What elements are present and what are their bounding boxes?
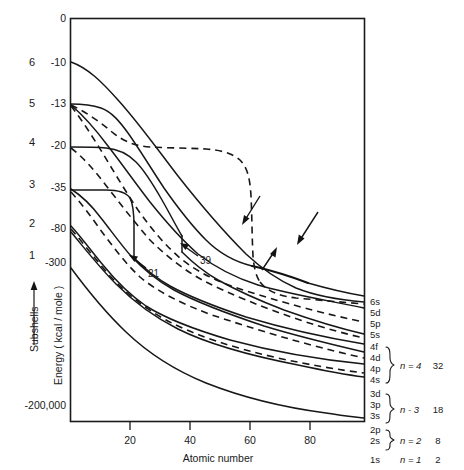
n-value-label-1: n = 1	[400, 454, 421, 465]
subshell-label-1s: 1s	[370, 454, 380, 465]
brace-n4	[386, 347, 394, 383]
shell-number-5: 5	[29, 97, 35, 109]
y-tick-label-minus300: -300	[45, 256, 66, 268]
capacity-label-3: 18	[433, 404, 444, 415]
shell-number-4: 4	[29, 136, 35, 148]
y-tick-label-minus10: -10	[51, 56, 66, 68]
x-axis-title: Atomic number	[183, 452, 254, 464]
subshell-label-3s: 3s	[370, 410, 380, 421]
x-tick-label-80: 80	[304, 434, 316, 446]
subshell-label-5p: 5p	[370, 318, 381, 329]
curve-3p	[71, 192, 364, 358]
curve-2s	[71, 232, 364, 377]
curve-5p	[71, 105, 260, 282]
shell-number-1: 1	[29, 249, 35, 261]
y-axis-title: Energy ( kcal / mole )	[52, 286, 64, 385]
subshell-label-4p: 4p	[370, 363, 381, 374]
capacity-label-2: 8	[435, 435, 440, 446]
annotation-arrow-21	[129, 255, 146, 268]
x-tick-label-20: 20	[124, 434, 136, 446]
subshell-label-2s: 2s	[370, 435, 380, 446]
subshell-label-4f: 4f	[370, 341, 378, 352]
annotation-arrow-5d-bold	[297, 212, 318, 245]
x-tick-label-60: 60	[244, 434, 256, 446]
n-value-label-3: n - 3	[400, 404, 420, 415]
annotation-label-39: 39	[200, 255, 212, 266]
x-tick-label-40: 40	[184, 434, 196, 446]
subshell-label-3d: 3d	[370, 388, 381, 399]
shell-number-6: 6	[29, 56, 35, 68]
curve-5s	[71, 105, 364, 308]
subshell-label-4d: 4d	[370, 352, 381, 363]
subshell-label-4s: 4s	[370, 374, 380, 385]
subshell-label-5s: 5s	[370, 329, 380, 340]
y-tick-label-minus200000: -200,000	[25, 399, 67, 411]
curve-1s	[71, 268, 364, 418]
capacity-label-4: 32	[433, 360, 444, 371]
y-tick-label-minus13: -13	[51, 97, 66, 109]
curve-4f	[71, 106, 364, 322]
y-tick-label-minus20: -20	[51, 139, 66, 151]
y-axis-secondary-title: Subshells	[28, 306, 40, 352]
annotation-label-21: 21	[148, 268, 160, 279]
orbital-energy-figure: 20 40 60 80 Atomic number 0 -10 -13 -20 …	[0, 0, 464, 470]
curve-3d-pre	[71, 189, 131, 256]
subshell-label-2p: 2p	[370, 424, 381, 435]
brace-n2	[386, 430, 394, 450]
annotation-arrow-4f-crossing	[262, 247, 277, 270]
curve-5d-left	[71, 104, 252, 266]
x-axis-ticks	[130, 422, 310, 431]
subshell-label-6s: 6s	[370, 296, 380, 307]
capacity-label-1: 2	[435, 454, 440, 465]
n-value-label-4: n = 4	[400, 360, 421, 371]
y-tick-label-0: 0	[60, 12, 66, 24]
y-tick-label-minus80: -80	[51, 222, 66, 234]
curve-6s	[71, 62, 364, 302]
subshell-label-5d: 5d	[370, 307, 381, 318]
annotation-arrow-lanthanide	[242, 196, 260, 225]
subshell-label-3p: 3p	[370, 399, 381, 410]
shell-number-2: 2	[29, 217, 35, 229]
shell-number-3: 3	[29, 178, 35, 190]
chart-canvas: 20 40 60 80 Atomic number 0 -10 -13 -20 …	[0, 0, 464, 470]
plot-frame	[71, 19, 365, 422]
n-value-label-2: n = 2	[400, 435, 422, 446]
brace-n3	[386, 394, 394, 423]
y-tick-label-minus35: -35	[51, 181, 66, 193]
